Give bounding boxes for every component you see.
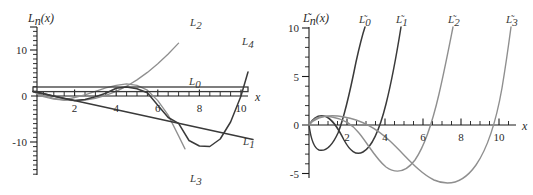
right-x-tick-label-8: 8 — [458, 131, 464, 143]
curve-label-L1: L1 — [242, 135, 255, 150]
curve-label-Ltilde0: ˜L0 — [358, 13, 371, 28]
right-y-tick-label-neg5: -5 — [290, 168, 300, 180]
curve-label-Ltilde3: ˜L3 — [505, 13, 518, 28]
right-y-tick-label-10: 10 — [288, 22, 300, 34]
left-x-tick-label-6: 6 — [155, 102, 161, 114]
right-panel-plot: 10 5 0 -5 2 4 6 8 10 ˜Ln(x) x ˜L0 ˜L1 ˜L… — [266, 0, 533, 195]
curve-Ltilde0 — [309, 27, 365, 150]
left-x-axis-label: x — [254, 90, 261, 104]
right-y-minor-ticks — [305, 38, 309, 164]
left-y-tick-label-neg10: -10 — [12, 136, 27, 148]
left-panel-plot: 10 0 -10 2 4 6 8 10 Ln(x) x L0 L1 L2 L3 … — [0, 0, 266, 195]
curve-label-Ltilde1: ˜L1 — [395, 13, 408, 28]
right-x-tick-label-4: 4 — [382, 131, 388, 143]
laguerre-polynomials-figure: 10 0 -10 2 4 6 8 10 Ln(x) x L0 L1 L2 L3 … — [0, 0, 533, 195]
right-y-tick-label-5: 5 — [294, 71, 300, 83]
right-panel-scaled-laguerre: 10 5 0 -5 2 4 6 8 10 ˜Ln(x) x ˜L0 ˜L1 ˜L… — [266, 0, 532, 195]
curve-L4 — [33, 72, 248, 147]
curve-Ltilde2 — [309, 27, 453, 171]
right-y-axis-label-arg: (x) — [316, 11, 329, 25]
left-x-tick-label-2: 2 — [72, 102, 78, 114]
left-x-tick-label-8: 8 — [197, 102, 203, 114]
right-x-axis-label: x — [521, 119, 528, 133]
curve-label-L0: L0 — [188, 75, 201, 90]
left-y-tick-label-0: 0 — [22, 90, 28, 102]
curve-Ltilde3 — [309, 27, 511, 183]
left-y-axis-label-arg: (x) — [41, 11, 54, 25]
right-x-tick-label-2: 2 — [344, 131, 350, 143]
curve-L1 — [33, 91, 253, 139]
left-x-tick-label-4: 4 — [113, 102, 119, 114]
curve-label-L4: L4 — [241, 35, 254, 50]
left-y-axis-label: Ln(x) — [27, 11, 54, 28]
curve-label-L3: L3 — [189, 172, 202, 187]
curve-label-L2: L2 — [189, 16, 202, 31]
left-panel-unscaled-laguerre: 10 0 -10 2 4 6 8 10 Ln(x) x L0 L1 L2 L3 … — [0, 0, 266, 195]
right-y-major-ticks — [302, 28, 309, 174]
right-x-major-ticks — [347, 119, 499, 126]
left-x-tick-label-10: 10 — [236, 102, 248, 114]
right-x-tick-label-10: 10 — [494, 131, 506, 143]
right-x-tick-label-6: 6 — [420, 131, 426, 143]
left-y-major-ticks — [30, 27, 37, 142]
left-y-tick-label-10: 10 — [16, 44, 28, 56]
left-x-minor-ticks — [43, 92, 230, 96]
right-y-axis-label: ˜Ln(x) — [302, 11, 329, 28]
curve-label-Ltilde2: ˜L2 — [447, 13, 460, 28]
right-y-tick-label-0: 0 — [294, 119, 300, 131]
left-y-minor-ticks — [33, 31, 37, 174]
